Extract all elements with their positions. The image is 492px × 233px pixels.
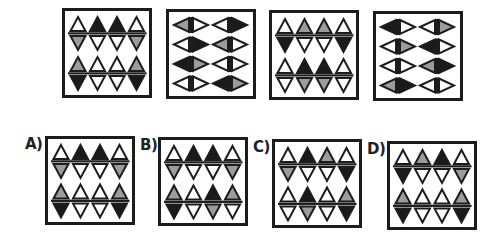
- down-triangle-icon: [278, 78, 293, 92]
- down-triangle-icon: [225, 165, 240, 179]
- down-triangle-icon: [73, 203, 88, 217]
- up-triangle-icon: [300, 187, 315, 201]
- pattern-grid: [169, 12, 253, 96]
- right-triangle-icon: [439, 40, 454, 54]
- divider-bar: [436, 58, 438, 74]
- divider-bar: [51, 160, 130, 162]
- up-triangle-icon: [167, 146, 182, 160]
- down-triangle-icon: [300, 167, 315, 181]
- down-triangle-icon: [54, 203, 69, 217]
- divider-bar: [275, 74, 354, 76]
- divider-bar: [190, 76, 192, 92]
- pattern-grid: [376, 14, 460, 98]
- down-triangle-icon: [454, 169, 469, 183]
- right-triangle-icon: [193, 77, 208, 91]
- sequence-panel-3: [269, 10, 359, 100]
- up-triangle-icon: [297, 19, 312, 33]
- pattern-grid: [65, 11, 149, 95]
- down-triangle-icon: [93, 203, 108, 217]
- up-triangle-icon: [415, 150, 430, 164]
- divider-bar: [436, 39, 438, 55]
- pattern-grid: [161, 140, 245, 223]
- divider-bar: [68, 72, 147, 74]
- left-triangle-icon: [174, 18, 189, 32]
- down-triangle-icon: [336, 78, 351, 92]
- down-triangle-icon: [167, 204, 182, 218]
- divider-bar: [393, 205, 472, 207]
- up-triangle-icon: [435, 150, 450, 164]
- left-triangle-icon: [213, 18, 228, 32]
- down-triangle-icon: [110, 36, 125, 50]
- divider-bar: [229, 17, 231, 33]
- right-triangle-icon: [439, 59, 454, 73]
- up-triangle-icon: [112, 184, 127, 198]
- up-triangle-icon: [167, 185, 182, 199]
- option-d-panel[interactable]: [387, 141, 477, 230]
- up-triangle-icon: [225, 185, 240, 199]
- option-a-panel[interactable]: [45, 136, 135, 225]
- up-triangle-icon: [300, 148, 315, 162]
- down-triangle-icon: [297, 38, 312, 52]
- right-triangle-icon: [193, 57, 208, 71]
- left-triangle-icon: [420, 59, 435, 73]
- up-triangle-icon: [317, 19, 332, 33]
- up-triangle-icon: [129, 57, 144, 71]
- pattern-grid: [272, 13, 356, 97]
- divider-bar: [190, 37, 192, 53]
- down-triangle-icon: [317, 78, 332, 92]
- up-triangle-icon: [186, 185, 201, 199]
- down-triangle-icon: [112, 164, 127, 178]
- divider-bar: [436, 19, 438, 35]
- divider-bar: [397, 39, 399, 55]
- up-triangle-icon: [54, 145, 69, 159]
- down-triangle-icon: [71, 76, 86, 90]
- down-triangle-icon: [454, 208, 469, 222]
- divider-bar: [190, 17, 192, 33]
- right-triangle-icon: [400, 20, 415, 34]
- left-triangle-icon: [381, 59, 396, 73]
- right-triangle-icon: [232, 57, 247, 71]
- up-triangle-icon: [278, 19, 293, 33]
- up-triangle-icon: [73, 145, 88, 159]
- up-triangle-icon: [93, 145, 108, 159]
- down-triangle-icon: [320, 206, 335, 220]
- right-triangle-icon: [193, 18, 208, 32]
- option-b-panel[interactable]: [158, 137, 248, 226]
- up-triangle-icon: [71, 17, 86, 31]
- option-c-panel[interactable]: [272, 139, 362, 228]
- down-triangle-icon: [396, 169, 411, 183]
- up-triangle-icon: [415, 189, 430, 203]
- up-triangle-icon: [129, 17, 144, 31]
- down-triangle-icon: [54, 164, 69, 178]
- up-triangle-icon: [339, 148, 354, 162]
- down-triangle-icon: [186, 165, 201, 179]
- right-triangle-icon: [439, 79, 454, 93]
- up-triangle-icon: [336, 19, 351, 33]
- up-triangle-icon: [317, 59, 332, 73]
- left-triangle-icon: [420, 20, 435, 34]
- down-triangle-icon: [71, 36, 86, 50]
- divider-bar: [51, 200, 130, 202]
- down-triangle-icon: [435, 208, 450, 222]
- pattern-grid: [390, 144, 474, 227]
- left-triangle-icon: [174, 38, 189, 52]
- up-triangle-icon: [112, 145, 127, 159]
- down-triangle-icon: [93, 164, 108, 178]
- down-triangle-icon: [317, 38, 332, 52]
- up-triangle-icon: [320, 148, 335, 162]
- divider-bar: [164, 161, 243, 163]
- down-triangle-icon: [186, 204, 201, 218]
- up-triangle-icon: [281, 187, 296, 201]
- down-triangle-icon: [225, 204, 240, 218]
- up-triangle-icon: [278, 59, 293, 73]
- divider-bar: [229, 76, 231, 92]
- divider-bar: [275, 34, 354, 36]
- right-triangle-icon: [400, 59, 415, 73]
- pattern-grid: [275, 142, 359, 225]
- up-triangle-icon: [297, 59, 312, 73]
- divider-bar: [397, 58, 399, 74]
- down-triangle-icon: [415, 169, 430, 183]
- divider-bar: [436, 78, 438, 94]
- up-triangle-icon: [93, 184, 108, 198]
- down-triangle-icon: [112, 203, 127, 217]
